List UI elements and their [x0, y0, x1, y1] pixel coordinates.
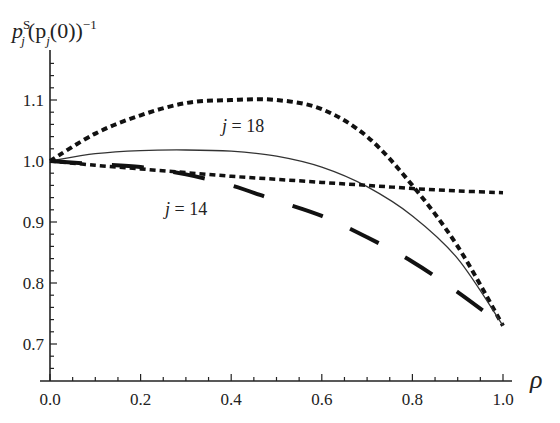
- y-tick-label: 0.9: [23, 213, 44, 232]
- series-line-1: [50, 150, 503, 326]
- x-tick-label: 0.4: [221, 390, 243, 409]
- chart: pSj(pj(0))−1 0.70.80.91.01.10.00.20.40.6…: [0, 0, 560, 423]
- x-tick-label: 0.0: [39, 390, 60, 409]
- y-axis-title: pSj(pj(0))−1: [10, 17, 97, 48]
- annotation-j18: j = 18: [220, 116, 264, 136]
- plot-area: [50, 99, 503, 325]
- y-tick-label: 1.1: [23, 91, 44, 110]
- x-tick-label: 0.6: [311, 390, 332, 409]
- x-axis-title: ρ: [529, 365, 542, 394]
- x-tick-label: 0.8: [402, 390, 423, 409]
- series-line-2: [50, 161, 503, 326]
- x-tick-label: 1.0: [492, 390, 513, 409]
- y-tick-label: 0.8: [23, 274, 44, 293]
- y-tick-label: 0.7: [23, 335, 45, 354]
- y-tick-label: 1.0: [23, 152, 44, 171]
- series-line-0: [50, 99, 503, 325]
- x-tick-label: 0.2: [130, 390, 151, 409]
- axes: 0.70.80.91.01.10.00.20.40.60.81.0: [23, 50, 514, 409]
- annotation-j14: j = 14: [163, 199, 207, 219]
